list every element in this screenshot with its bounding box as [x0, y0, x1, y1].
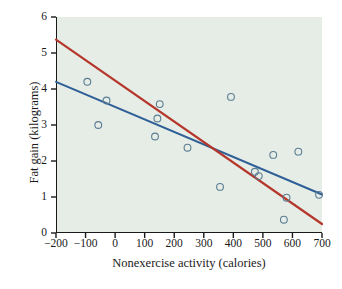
x-axis-title: Nonexercise activity (calories): [56, 256, 322, 271]
y-tick-label: 5: [41, 47, 47, 59]
y-tick-label: 3: [41, 119, 47, 131]
y-axis-title: Fat gain (kilograms): [27, 48, 42, 218]
y-tick-label: 1: [41, 191, 47, 203]
x-tick-label: 600: [284, 238, 301, 250]
x-tick-label: 500: [254, 238, 271, 250]
y-tick-label: 0: [41, 227, 47, 239]
x-tick-label: 200: [166, 238, 183, 250]
y-tick-label: 4: [41, 83, 47, 95]
y-tick-label: 2: [41, 155, 47, 167]
x-tick-label: 300: [195, 238, 212, 250]
x-tick-label: 0: [112, 238, 118, 250]
scatter-plot-figure: −200−10001002003004005006007000123456 No…: [0, 0, 342, 289]
x-tick-label: −100: [74, 238, 98, 250]
x-tick-label: −200: [44, 238, 68, 250]
x-tick-label: 700: [313, 238, 330, 250]
plot-area: [56, 17, 322, 233]
y-tick-label: 6: [41, 11, 47, 23]
x-tick-label: 400: [225, 238, 242, 250]
x-tick-label: 100: [136, 238, 153, 250]
